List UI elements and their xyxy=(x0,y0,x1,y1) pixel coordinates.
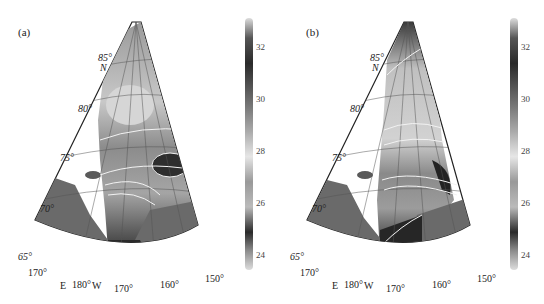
colorbar-a xyxy=(245,18,253,270)
lat-80-label: 80° xyxy=(78,103,92,114)
map-b xyxy=(272,0,544,304)
colorbar-a-tick-32: 32 xyxy=(256,42,265,52)
lat-65-label: 65° xyxy=(290,251,304,262)
colorbar-b-tick-26: 26 xyxy=(521,198,530,208)
colorbar-b-tick-30: 30 xyxy=(521,94,530,104)
panel-label-a: (a) xyxy=(18,26,30,38)
lon-w-label: W xyxy=(364,280,373,291)
panel-label-b: (b) xyxy=(306,26,319,38)
lon-160w-label: 160° xyxy=(160,279,179,290)
lon-e-label: E xyxy=(60,280,66,291)
lat-n-label: N xyxy=(372,62,379,73)
lon-180-label: 180° xyxy=(344,279,363,290)
lat-n-label: N xyxy=(100,62,107,73)
lat-65-label: 65° xyxy=(18,251,32,262)
colorbar-a-tick-26: 26 xyxy=(256,198,265,208)
panel-a: (a) 85° N 80° 75° 70° 65° 170° E 180° W … xyxy=(0,0,272,304)
colorbar-b-tick-28: 28 xyxy=(521,146,530,156)
map-a xyxy=(0,0,272,304)
lon-150w-label: 150° xyxy=(205,273,224,284)
panel-b: (b) 85° N 80° 75° 70° 65° 170° E 180° W … xyxy=(272,0,544,304)
lon-180-label: 180° xyxy=(72,279,91,290)
lat-75-label: 75° xyxy=(60,152,74,163)
colorbar-b xyxy=(510,18,518,270)
colorbar-a-tick-28: 28 xyxy=(256,146,265,156)
wrangel-island xyxy=(85,171,101,179)
lon-170w-label: 170° xyxy=(114,283,133,294)
lon-170e-label: 170° xyxy=(28,267,47,278)
colorbar-b-tick-24: 24 xyxy=(521,250,530,260)
lon-170e-label: 170° xyxy=(300,267,319,278)
colorbar-b-tick-32: 32 xyxy=(521,42,530,52)
wrangel-island xyxy=(357,171,373,179)
lon-160w-label: 160° xyxy=(432,279,451,290)
lat-70-label: 70° xyxy=(40,203,54,214)
colorbar-a-tick-30: 30 xyxy=(256,94,265,104)
lat-70-label: 70° xyxy=(312,203,326,214)
lat-75-label: 75° xyxy=(332,152,346,163)
lon-150w-label: 150° xyxy=(477,273,496,284)
lon-w-label: W xyxy=(92,280,101,291)
colorbar-a-tick-24: 24 xyxy=(256,250,265,260)
lon-170w-label: 170° xyxy=(386,283,405,294)
lat-80-label: 80° xyxy=(350,103,364,114)
lon-e-label: E xyxy=(332,280,338,291)
